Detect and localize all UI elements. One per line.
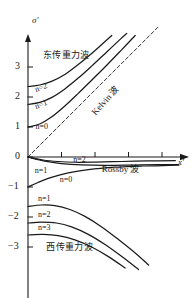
curve-label-n3-12: n=3 <box>38 224 51 232</box>
east-gravity-wave-label: 东传重力波 <box>43 51 90 60</box>
rossby-wave-label: Rossby 波 <box>102 165 140 174</box>
curve-label-n1-10: n=1 <box>38 195 51 203</box>
y-tick-label-2: 1 <box>15 121 20 131</box>
y-axis-label: σ′ <box>32 16 38 25</box>
y-tick-label-6: −3 <box>8 241 19 251</box>
y-tick-label-1: 2 <box>15 91 20 101</box>
west-gravity-wave-label: 西传重力波 <box>46 243 93 252</box>
curve-label-n2-11: n=2 <box>38 211 51 219</box>
curve-label-n2-7: n=2 <box>73 156 86 164</box>
x-axis-label: x′ <box>178 158 184 167</box>
curve-label-n0-9: n=0 <box>60 176 73 184</box>
curve-label-n1-8: n=1 <box>35 167 48 175</box>
curve-east-gravity-n2 <box>28 36 112 87</box>
y-tick-label-0: 3 <box>15 61 20 71</box>
dispersion-diagram: σ′ x′ 3210−1−2−3 东传重力波西传重力波Kelvin 波Rossb… <box>0 0 195 299</box>
y-tick-label-3: 0 <box>15 151 20 161</box>
y-tick-label-4: −1 <box>8 181 19 191</box>
curve-label-n0-6: n=0 <box>35 123 48 131</box>
curve-rossby-n2 <box>28 157 175 162</box>
curve-kelvin-dashed <box>28 27 159 158</box>
y-axis-arrow <box>25 34 31 42</box>
plot-canvas <box>0 0 195 299</box>
y-tick-label-5: −2 <box>8 211 19 221</box>
